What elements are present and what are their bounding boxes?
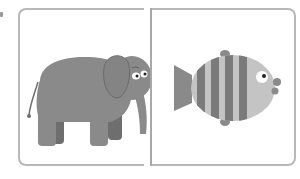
margin-mark — [0, 12, 3, 17]
right-panel — [170, 45, 295, 135]
elephant-icon — [20, 10, 150, 164]
fish-icon — [170, 45, 295, 135]
panel-divider — [150, 8, 152, 166]
left-panel — [20, 10, 150, 164]
